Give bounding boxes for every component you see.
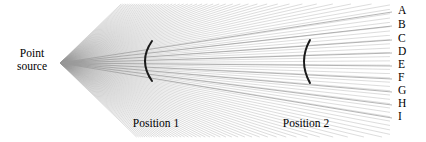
figure-container: Pointsource Position 1 Position 2 ABCDEF… bbox=[0, 0, 426, 142]
fan-ray bbox=[60, 4, 249, 63]
fan-ray bbox=[60, 4, 351, 63]
ray-label-f: F bbox=[398, 71, 414, 83]
ray-diagram-canvas bbox=[0, 0, 426, 142]
fan-ray bbox=[60, 18, 390, 63]
ray-label-c: C bbox=[398, 32, 414, 44]
position-2-label: Position 2 bbox=[258, 117, 354, 130]
ray-label-i: I bbox=[398, 110, 414, 122]
ray-label-e: E bbox=[398, 58, 414, 70]
ray-label-d: D bbox=[398, 45, 414, 57]
ray-label-b: B bbox=[398, 18, 414, 30]
ray-label-h: H bbox=[398, 97, 414, 109]
ray-label-a: A bbox=[398, 4, 414, 16]
point-source-line-2: source bbox=[17, 60, 47, 72]
ray-label-g: G bbox=[398, 84, 414, 96]
fan-ray bbox=[60, 4, 226, 63]
point-source-line-1: Point bbox=[20, 47, 44, 59]
fan-ray bbox=[60, 4, 197, 63]
position-1-label: Position 1 bbox=[108, 117, 204, 130]
fan-ray bbox=[60, 63, 390, 108]
point-source-label: Pointsource bbox=[6, 47, 58, 73]
